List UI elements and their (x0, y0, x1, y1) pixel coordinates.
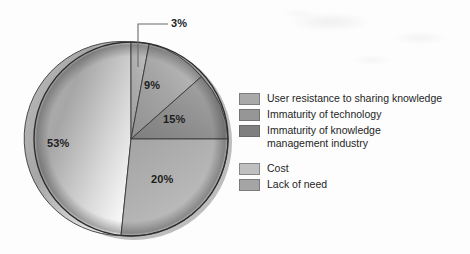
legend-item-lack-of-need[interactable]: Lack of need (239, 178, 470, 191)
legend-swatch-icon-immaturity-km-industry (239, 125, 260, 137)
legend-group-secondary: Cost Lack of need (239, 162, 470, 191)
legend-label-immaturity-technology: Immaturity of technology (267, 108, 381, 121)
legend-swatch-icon-immaturity-technology (239, 109, 260, 121)
legend-item-cost[interactable]: Cost (239, 162, 470, 175)
pie-label-lack-of-need: 53% (47, 137, 69, 149)
legend-spacer (239, 152, 470, 162)
legend-swatch-icon-cost (239, 163, 260, 175)
legend-swatch-icon-user-resistance (239, 93, 260, 105)
legend-item-immaturity-technology[interactable]: Immaturity of technology (239, 108, 470, 121)
legend-label-user-resistance: User resistance to sharing knowledge (267, 92, 442, 105)
pie-label-immaturity-technology: 9% (144, 79, 160, 91)
legend-item-immaturity-km-industry[interactable]: Immaturity of knowledge management indus… (239, 124, 470, 149)
legend-label-lack-of-need: Lack of need (267, 178, 327, 191)
legend-swatch-icon-lack-of-need (239, 179, 260, 191)
legend-item-user-resistance[interactable]: User resistance to sharing knowledge (239, 92, 470, 105)
pie-chart-area: 3% 9% 15% 20% 53% (0, 0, 245, 254)
legend-group-primary: User resistance to sharing knowledge Imm… (239, 92, 470, 149)
pie-label-cost: 20% (151, 173, 173, 185)
pie-label-user-resistance: 3% (171, 17, 187, 29)
pie-chart-svg (0, 0, 245, 254)
legend-label-immaturity-km-industry: Immaturity of knowledge management indus… (267, 124, 381, 149)
pie-label-immaturity-km-industry: 15% (163, 113, 185, 125)
legend-label-cost: Cost (267, 162, 289, 175)
chart-legend: User resistance to sharing knowledge Imm… (239, 92, 470, 194)
